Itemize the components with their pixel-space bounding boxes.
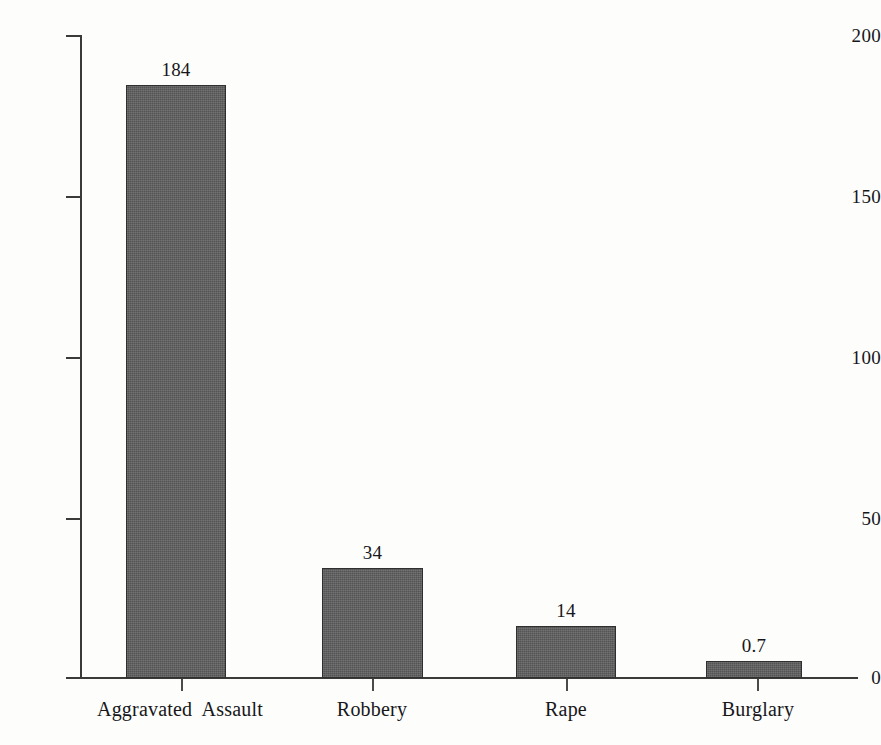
x-tick-burglary xyxy=(757,679,759,691)
bar-aggravated-assault xyxy=(126,85,226,678)
y-tick-0 xyxy=(66,677,81,679)
x-axis-label-aggravated-assault: Aggravated Assault xyxy=(55,698,305,720)
bar-chart: 200 150 100 50 0 184 Aggravated Assault … xyxy=(0,0,881,745)
bar-value-burglary: 0.7 xyxy=(706,636,802,655)
bar-rape xyxy=(516,626,616,678)
x-tick-rape xyxy=(566,679,568,691)
y-tick-100 xyxy=(66,357,81,359)
bar-value-rape: 14 xyxy=(516,601,616,620)
x-axis-label-rape: Rape xyxy=(491,698,641,720)
y-tick-label-200: 200 xyxy=(819,26,881,45)
y-tick-label-50: 50 xyxy=(819,509,881,528)
plot-area: 200 150 100 50 0 184 Aggravated Assault … xyxy=(0,0,881,745)
bar-burglary xyxy=(706,661,802,678)
y-tick-label-150: 150 xyxy=(819,187,881,206)
x-tick-aggravated-assault xyxy=(181,679,183,691)
y-tick-150 xyxy=(66,196,81,198)
x-axis-label-burglary: Burglary xyxy=(683,698,833,720)
bar-value-robbery: 34 xyxy=(322,543,423,562)
x-tick-robbery xyxy=(372,679,374,691)
y-tick-200 xyxy=(66,35,81,37)
bar-robbery xyxy=(322,568,423,678)
y-tick-50 xyxy=(66,518,81,520)
bar-value-aggravated-assault: 184 xyxy=(126,60,226,79)
y-tick-label-0: 0 xyxy=(819,668,881,687)
y-tick-label-100: 100 xyxy=(819,348,881,367)
x-axis-label-robbery: Robbery xyxy=(297,698,447,720)
